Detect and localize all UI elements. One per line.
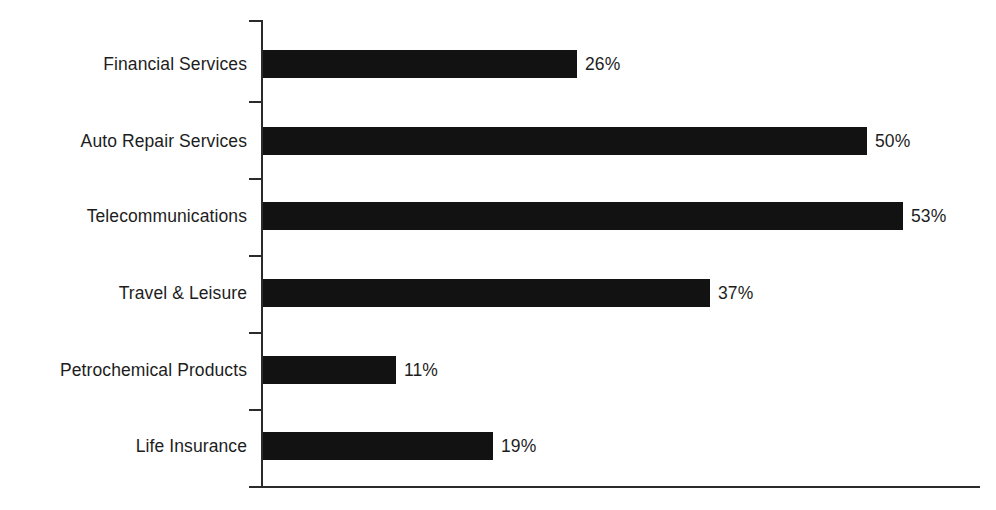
category-axis-line	[261, 20, 263, 488]
bar-row: Petrochemical Products 11%	[0, 356, 996, 384]
bar-category-label: Financial Services	[103, 54, 247, 75]
bar-value-label: 50%	[875, 131, 910, 152]
bar-row: Financial Services 26%	[0, 50, 996, 78]
bar-rect	[263, 279, 710, 307]
bar-row: Life Insurance 19%	[0, 432, 996, 460]
bar-value-label: 11%	[404, 360, 438, 381]
bar-rect	[263, 202, 903, 230]
bar-value-label: 19%	[501, 436, 536, 457]
axis-tick-3	[249, 255, 262, 257]
value-axis-baseline	[262, 486, 980, 488]
bar-rect	[263, 356, 396, 384]
bar-rect	[263, 127, 867, 155]
bar-value-label: 26%	[585, 54, 620, 75]
bar-category-label: Life Insurance	[136, 436, 247, 457]
bar-rect	[263, 432, 493, 460]
bar-category-label: Auto Repair Services	[81, 131, 247, 152]
axis-tick-5	[249, 409, 262, 411]
bar-value-label: 37%	[718, 283, 753, 304]
axis-tick-4	[249, 332, 262, 334]
bar-row: Travel & Leisure 37%	[0, 279, 996, 307]
bar-category-label: Petrochemical Products	[60, 360, 247, 381]
plot-area: Financial Services 26% Auto Repair Servi…	[0, 0, 996, 510]
bar-row: Telecommunications 53%	[0, 202, 996, 230]
axis-tick-0	[249, 20, 262, 22]
bar-rect	[263, 50, 577, 78]
bar-category-label: Travel & Leisure	[119, 283, 247, 304]
axis-tick-1	[249, 101, 262, 103]
bar-value-label: 53%	[911, 206, 946, 227]
axis-tick-2	[249, 178, 262, 180]
bar-row: Auto Repair Services 50%	[0, 127, 996, 155]
bar-category-label: Telecommunications	[87, 206, 247, 227]
axis-tick-6	[249, 486, 262, 488]
bar-chart-figure: Financial Services 26% Auto Repair Servi…	[0, 0, 996, 510]
